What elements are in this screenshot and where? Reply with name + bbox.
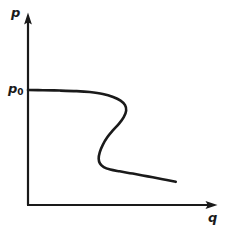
- p0-subscript: 0: [17, 87, 23, 97]
- p0-tick-label: p0: [8, 82, 24, 95]
- curve-line: [28, 90, 176, 182]
- x-axis-label: q: [208, 211, 217, 224]
- figure-container: p q p0: [0, 0, 230, 229]
- p0-base: p: [8, 81, 17, 96]
- y-axis-label: p: [11, 6, 20, 19]
- plot-area: [0, 0, 230, 229]
